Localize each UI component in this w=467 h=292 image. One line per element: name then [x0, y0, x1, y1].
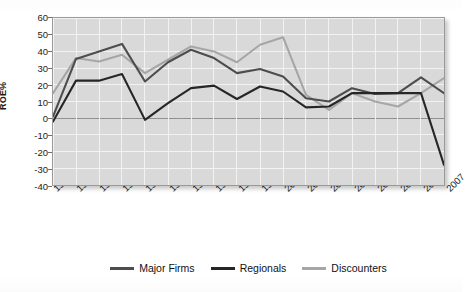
- legend-item-major-firms: Major Firms: [110, 262, 194, 274]
- legend-swatch-icon: [302, 267, 326, 270]
- x-tick-2007: 2007: [444, 171, 467, 194]
- legend-swatch-icon: [211, 267, 235, 270]
- legend-label: Regionals: [240, 262, 287, 274]
- chart-legend: Major FirmsRegionalsDiscounters: [52, 262, 445, 274]
- legend-label: Major Firms: [139, 262, 194, 274]
- series-lines: [53, 18, 444, 185]
- legend-swatch-icon: [110, 267, 134, 270]
- plot-area: [52, 17, 445, 186]
- legend-item-regionals: Regionals: [211, 262, 287, 274]
- legend-label: Discounters: [331, 262, 386, 274]
- legend-item-discounters: Discounters: [302, 262, 386, 274]
